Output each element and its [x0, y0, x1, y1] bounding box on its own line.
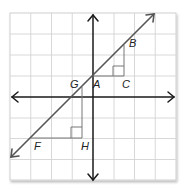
coordinate-plane-figure: A B C F G H: [0, 0, 182, 188]
label-b: B: [129, 37, 136, 49]
diagram-canvas: A B C F G H: [0, 0, 182, 188]
label-a: A: [92, 78, 100, 90]
label-h: H: [81, 140, 89, 152]
label-g: G: [70, 78, 79, 90]
label-c: C: [122, 78, 130, 90]
